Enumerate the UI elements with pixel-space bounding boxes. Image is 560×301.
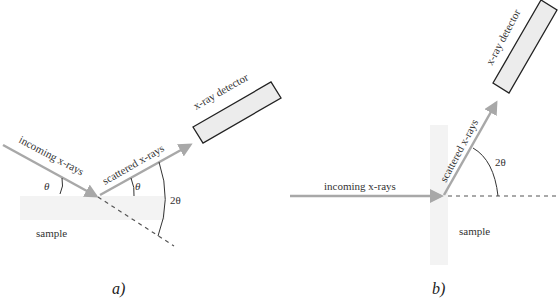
caption-b: b) xyxy=(432,280,445,298)
incoming-label-b: incoming x-rays xyxy=(324,180,396,192)
theta-arc-scattered xyxy=(131,178,134,196)
theta-arc-incoming xyxy=(60,178,63,194)
sample-label-a: sample xyxy=(36,227,67,239)
two-theta-label-b: 2θ xyxy=(495,156,506,168)
panel-b: incoming x-rays scattered x-rays x-ray d… xyxy=(290,0,560,298)
panel-a: incoming x-rays scattered x-rays x-ray d… xyxy=(3,70,281,298)
sample-a xyxy=(20,196,165,220)
detector-a xyxy=(193,82,281,143)
caption-a: a) xyxy=(112,280,125,298)
x-ray-diffraction-diagram: incoming x-rays scattered x-rays x-ray d… xyxy=(0,0,560,301)
two-theta-label-a: 2θ xyxy=(170,194,181,206)
theta-label-out: θ xyxy=(135,180,141,192)
sample-label-b: sample xyxy=(459,225,490,237)
theta-label-in: θ xyxy=(44,180,50,192)
